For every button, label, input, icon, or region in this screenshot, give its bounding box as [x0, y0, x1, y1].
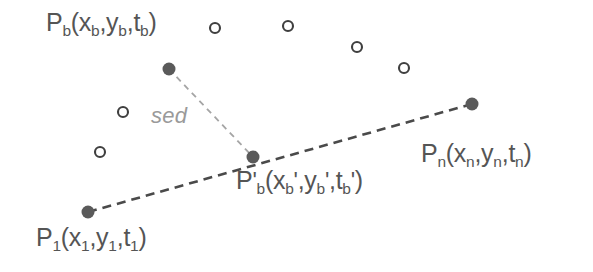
sed-annotation-label: sed: [151, 105, 187, 127]
point-p-1: [82, 206, 95, 219]
label-p-b-close: ): [148, 8, 156, 36]
label-p-1-tsub: 1: [130, 237, 138, 254]
filled-point-group: [82, 63, 479, 219]
label-p-n-sub: n: [437, 153, 445, 170]
label-p-1-comma2: ,t: [117, 223, 130, 251]
label-p-1-comma1: ,y: [89, 223, 108, 251]
label-p-1: P1(x1,y1,t1): [36, 225, 146, 250]
label-p-b-prime-comma2: ,t: [329, 166, 342, 194]
hollow-point: [210, 23, 220, 33]
label-p-b-prime-close: ): [355, 166, 363, 194]
label-p-b-base: P: [46, 8, 62, 36]
label-p-n-ysub: n: [493, 153, 501, 170]
label-p-b-sub: b: [62, 22, 70, 39]
hollow-point: [118, 107, 128, 117]
label-p-b-comma2: ,t: [127, 8, 140, 36]
label-p-n-open: (x: [446, 139, 466, 167]
label-p-n-comma2: ,t: [502, 139, 515, 167]
label-p-1-sub: 1: [52, 237, 60, 254]
hollow-point-group: [95, 21, 409, 157]
label-p-b-prime: P'b(xb',yb',tb'): [236, 168, 363, 193]
label-p-b-prime-comma1: ,y: [298, 166, 317, 194]
label-p-1-close: ): [138, 223, 146, 251]
label-p-n: Pn(xn,yn,tn): [421, 141, 531, 166]
label-p-b-prime-open: (x: [265, 166, 285, 194]
label-p-n-xsub: n: [466, 153, 474, 170]
hollow-point: [352, 42, 362, 52]
label-p-b-prime-ysub: b: [317, 180, 325, 197]
label-p-b-ysub: b: [118, 22, 126, 39]
hollow-point: [95, 147, 105, 157]
point-p-b-prime: [247, 151, 260, 164]
hollow-point: [283, 21, 293, 31]
hollow-point: [399, 63, 409, 73]
label-p-b-tsub: b: [140, 22, 148, 39]
sed-diagram: Pb(xb,yb,tb) P'b(xb',yb',tb') Pn(xn,yn,t…: [0, 0, 593, 272]
label-p-n-tsub: n: [515, 153, 523, 170]
label-p-b-prime-base: P: [236, 166, 252, 194]
label-p-b-prime-sub: b: [256, 180, 264, 197]
label-p-1-base: P: [36, 223, 52, 251]
label-p-1-open: (x: [61, 223, 81, 251]
label-p-1-ysub: 1: [108, 237, 116, 254]
label-p-n-comma1: ,y: [474, 139, 493, 167]
label-p-n-close: ): [523, 139, 531, 167]
label-p-b-prime-tsub: b: [342, 180, 350, 197]
label-p-b-prime-xsub: b: [285, 180, 293, 197]
point-p-b: [163, 63, 176, 76]
label-p-b-comma1: ,y: [99, 8, 118, 36]
label-p-b: Pb(xb,yb,tb): [46, 10, 156, 35]
point-p-n: [466, 98, 479, 111]
label-p-b-open: (x: [71, 8, 91, 36]
label-p-1-xsub: 1: [81, 237, 89, 254]
label-p-n-base: P: [421, 139, 437, 167]
trajectory-baseline-line: [88, 104, 472, 212]
label-p-b-xsub: b: [91, 22, 99, 39]
